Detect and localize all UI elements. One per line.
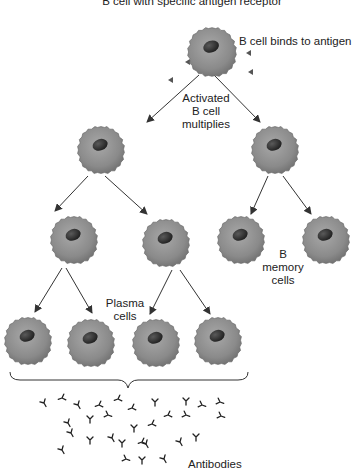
label-binds-antigen: B cell binds to antigen (239, 35, 352, 48)
arrow-gen2-left-to-plasma-1 (35, 268, 62, 312)
antigen-icon (248, 69, 253, 75)
label-activated-line2: B cell (170, 105, 242, 118)
antigen-icon (185, 59, 190, 65)
label-memory-line1: B (258, 248, 308, 261)
plasma-cell-1 (5, 318, 52, 365)
label-activated-line3: multiplies (170, 118, 242, 131)
b-cell-diagram: B cell with specific antigen receptor B … (0, 0, 352, 472)
b-cell-gen2-mid (143, 220, 190, 267)
label-antibodies: Antibodies (188, 458, 242, 471)
b-cell-root (188, 28, 237, 77)
plasma-cell-3 (133, 320, 180, 367)
b-cell-gen1-left (78, 127, 125, 174)
arrow-gen2-mid-to-plasma-4 (180, 270, 210, 314)
label-activated-line1: Activated (170, 92, 242, 105)
label-memory-cells: B memory cells (258, 248, 308, 287)
antigen-icon (168, 77, 173, 83)
plasma-cell-2 (68, 320, 115, 367)
label-activated: Activated B cell multiplies (170, 92, 242, 131)
label-memory-line3: cells (258, 274, 308, 287)
arrow-gen2-left-to-plasma-2 (66, 268, 92, 313)
arrow-gen1-right-to-memory-1 (251, 176, 268, 214)
plasma-cell-4 (195, 318, 242, 365)
cells (5, 28, 350, 367)
b-cell-gen2-left (51, 217, 98, 264)
label-plasma-cells: Plasma cells (100, 297, 150, 323)
diagram-title: B cell with specific antigen receptor (92, 0, 292, 8)
brace (10, 372, 248, 388)
memory-cell-2 (303, 217, 350, 264)
label-plasma-line2: cells (100, 310, 150, 323)
antigen-icon (246, 50, 251, 56)
antibodies (40, 394, 226, 464)
label-memory-line2: memory (258, 261, 308, 274)
b-cell-gen1-right (252, 127, 299, 174)
label-plasma-line1: Plasma (100, 297, 150, 310)
diagram-canvas (0, 0, 352, 472)
arrow-gen1-left-to-gen2-mid (105, 176, 147, 214)
arrow-gen1-right-to-memory-2 (283, 176, 311, 214)
arrow-gen2-mid-to-plasma-3 (150, 270, 172, 314)
arrow-gen1-left-to-gen2-left (55, 176, 88, 211)
